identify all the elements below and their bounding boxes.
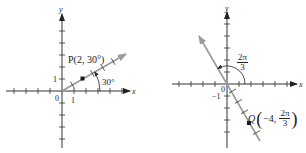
right-y-axis-label: y bbox=[224, 4, 229, 13]
close-paren: ) bbox=[291, 110, 297, 128]
point-q-theta: 2π 3 bbox=[279, 109, 290, 128]
left-x-axis-label: x bbox=[131, 87, 136, 96]
right-y-tick-label: −1 bbox=[212, 92, 221, 101]
polar-coordinates-figure: y x 0 1 1 P(2, 30°) 30° bbox=[0, 0, 306, 153]
left-x-tick-label: 1 bbox=[71, 96, 75, 105]
left-y-tick-label: 1 bbox=[53, 75, 57, 84]
angle-arc-30 bbox=[95, 72, 100, 91]
theta-den: 3 bbox=[279, 119, 290, 128]
open-paren: ( bbox=[256, 110, 262, 128]
angle-2pi-3-label: 2π 3 bbox=[237, 53, 248, 72]
point-q-prefix: Q bbox=[248, 114, 255, 124]
left-diagram: y x 0 1 1 P(2, 30°) 30° bbox=[6, 5, 136, 148]
angle-den: 3 bbox=[237, 63, 248, 72]
right-x-axis-label: x bbox=[298, 80, 303, 89]
point-p-label: P(2, 30°) bbox=[68, 54, 104, 66]
point-q-label: Q ( −4, 2π 3 ) bbox=[248, 109, 297, 128]
right-origin-label: 0 bbox=[221, 85, 225, 94]
point-q-r: −4, bbox=[263, 114, 276, 124]
angle-30-label: 30° bbox=[102, 77, 115, 87]
left-y-axis-label: y bbox=[58, 5, 63, 14]
left-origin-label: 0 bbox=[55, 94, 59, 103]
point-p bbox=[81, 77, 85, 81]
